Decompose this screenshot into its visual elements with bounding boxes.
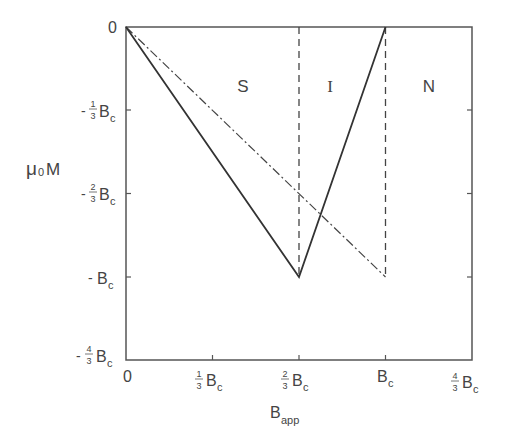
svg-text:2: 2 xyxy=(90,182,95,192)
y-tick-label-0: 0 xyxy=(108,19,117,36)
region-label-i: I xyxy=(327,77,333,96)
svg-text:B: B xyxy=(270,404,281,421)
svg-text:app: app xyxy=(281,414,299,426)
svg-text:B: B xyxy=(96,348,107,365)
x-tick-label-four-thirds: 4 3 B c xyxy=(451,371,479,395)
y-tick-label-neg-one: - B c xyxy=(88,270,114,291)
svg-text:-: - xyxy=(81,103,86,119)
x-axis-title: B app xyxy=(270,404,299,426)
svg-text:3: 3 xyxy=(196,381,201,391)
svg-text:c: c xyxy=(107,357,113,369)
svg-text:B: B xyxy=(292,372,303,389)
y-tick-label-neg-four-thirds: - 4 3 B c xyxy=(76,344,113,369)
svg-text:3: 3 xyxy=(282,381,287,391)
svg-text:c: c xyxy=(108,279,114,291)
svg-text:2: 2 xyxy=(282,369,287,379)
svg-text:-: - xyxy=(76,348,81,364)
svg-text:c: c xyxy=(110,112,116,124)
svg-text:c: c xyxy=(217,381,223,393)
svg-text:-: - xyxy=(88,270,93,286)
svg-text:B: B xyxy=(99,186,110,203)
svg-text:μ: μ xyxy=(26,158,37,179)
svg-text:3: 3 xyxy=(452,383,457,393)
svg-text:c: c xyxy=(110,195,116,207)
svg-text:B: B xyxy=(377,368,388,385)
svg-text:4: 4 xyxy=(86,344,91,354)
svg-text:1: 1 xyxy=(90,99,95,109)
svg-text:c: c xyxy=(303,381,309,393)
svg-text:B: B xyxy=(206,372,217,389)
svg-text:B: B xyxy=(99,103,110,120)
svg-text:c: c xyxy=(388,377,394,389)
svg-text:B: B xyxy=(97,270,108,287)
region-label-s: S xyxy=(237,77,248,96)
svg-text:4: 4 xyxy=(452,371,457,381)
dash-dot-series xyxy=(126,27,386,277)
svg-text:3: 3 xyxy=(90,194,95,204)
svg-text:-: - xyxy=(81,186,86,202)
svg-text:M: M xyxy=(46,160,60,179)
svg-text:c: c xyxy=(473,383,479,395)
svg-text:3: 3 xyxy=(90,111,95,121)
x-tick-label-bc: B c xyxy=(377,368,394,389)
region-label-n: N xyxy=(423,77,435,96)
x-tick-label-0: 0 xyxy=(123,368,132,385)
chart: S I N 0 - 1 3 B c - 2 3 B c - B c - 4 3 … xyxy=(0,0,509,448)
y-tick-label-neg-two-thirds: - 2 3 B c xyxy=(81,182,116,207)
svg-text:0: 0 xyxy=(38,166,44,178)
svg-text:1: 1 xyxy=(196,369,201,379)
svg-text:B: B xyxy=(462,374,473,391)
x-tick-label-two-thirds: 2 3 B c xyxy=(281,369,309,393)
x-tick-label-one-third: 1 3 B c xyxy=(195,369,223,393)
svg-text:3: 3 xyxy=(86,356,91,366)
y-tick-label-neg-one-third: - 1 3 B c xyxy=(81,99,116,124)
y-axis-title: μ 0 M xyxy=(26,158,60,179)
